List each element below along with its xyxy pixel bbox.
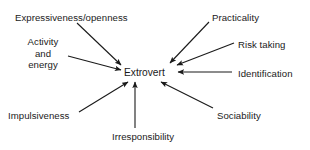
center-node-extrovert: Extrovert	[124, 67, 165, 79]
node-label-sociability: Sociability	[217, 110, 261, 122]
node-label-practicality: Practicality	[212, 12, 259, 24]
arrow-practicality	[170, 22, 209, 63]
arrow-impulsiveness	[79, 82, 128, 112]
node-label-expressiveness-openness: Expressiveness/openness	[15, 12, 128, 24]
node-label-impulsiveness: Impulsiveness	[8, 110, 69, 122]
diagram-canvas: Expressiveness/opennessActivity and ener…	[0, 0, 310, 150]
node-label-identification: Identification	[238, 68, 293, 80]
arrow-sociability	[161, 82, 213, 108]
node-label-risk-taking: Risk taking	[238, 39, 285, 51]
node-label-irresponsibility: Irresponsibility	[112, 131, 174, 143]
arrow-expressiveness-openness	[77, 23, 121, 65]
node-label-activity-and-energy: Activity and energy	[22, 36, 64, 71]
